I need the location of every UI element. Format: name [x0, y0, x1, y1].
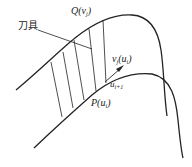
ruling-line — [103, 20, 106, 83]
q-curve-label: Q(vj) — [71, 6, 91, 17]
ruling-line — [89, 29, 96, 91]
ruling-line — [63, 52, 73, 108]
u-next-label: ui+1 — [110, 80, 123, 90]
ruling-line — [74, 40, 84, 100]
vector-label: vj(ui) — [112, 54, 131, 65]
ruling-line — [51, 62, 62, 117]
curve-p — [34, 74, 183, 158]
p-curve-label: P(ui) — [91, 98, 110, 109]
tool-label: 刀具 — [18, 21, 38, 31]
